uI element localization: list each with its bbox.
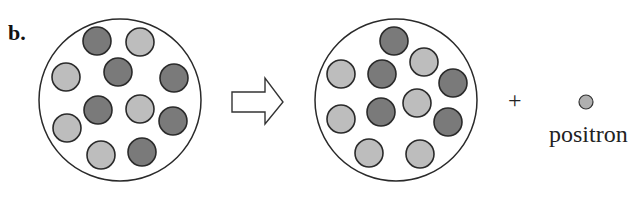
neutron-particle	[327, 60, 355, 88]
neutron-particle	[410, 48, 438, 76]
nucleus-before-particles	[52, 27, 188, 169]
neutron-particle	[126, 28, 154, 56]
neutron-particle	[52, 63, 80, 91]
neutron-particle	[355, 139, 383, 167]
panel-label: b.	[8, 20, 26, 46]
proton-particle	[159, 107, 187, 135]
neutron-particle	[406, 140, 434, 168]
positron-particle	[579, 95, 593, 109]
decay-diagram	[0, 0, 632, 200]
proton-particle	[380, 27, 408, 55]
proton-particle	[439, 69, 467, 97]
right-arrow-icon	[232, 78, 283, 124]
proton-particle	[160, 64, 188, 92]
positron-label: positron	[549, 120, 628, 148]
proton-particle	[84, 96, 112, 124]
neutron-particle	[53, 114, 81, 142]
plus-sign: +	[508, 88, 522, 112]
proton-particle	[104, 58, 132, 86]
proton-particle	[368, 60, 396, 88]
proton-particle	[367, 98, 395, 126]
proton-particle	[128, 138, 156, 166]
neutron-particle	[327, 105, 355, 133]
proton-particle	[434, 108, 462, 136]
neutron-particle	[126, 95, 154, 123]
proton-particle	[83, 27, 111, 55]
neutron-particle	[403, 89, 431, 117]
neutron-particle	[87, 141, 115, 169]
nucleus-before-boundary	[39, 19, 201, 181]
nucleus-after-particles	[327, 27, 467, 168]
